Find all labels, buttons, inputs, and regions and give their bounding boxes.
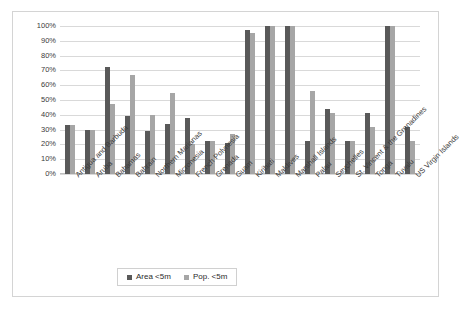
bar-group bbox=[400, 26, 420, 174]
y-axis-tick-label: 50% bbox=[41, 96, 56, 104]
plot-area: 100%90%80%70%60%50%40%30%20%10%0% bbox=[60, 26, 420, 174]
y-axis-tick-label: 40% bbox=[41, 111, 56, 119]
legend-label: Area <5m bbox=[136, 273, 171, 281]
bar-group bbox=[280, 26, 300, 174]
bar-group bbox=[260, 26, 280, 174]
legend-swatch-icon bbox=[184, 275, 189, 280]
bar-group bbox=[240, 26, 260, 174]
bar-group bbox=[60, 26, 80, 174]
bar[interactable] bbox=[270, 26, 275, 174]
bar[interactable] bbox=[390, 26, 395, 174]
bar-group bbox=[140, 26, 160, 174]
y-axis-tick-label: 80% bbox=[41, 52, 56, 60]
y-axis-tick-label: 90% bbox=[41, 37, 56, 45]
legend-swatch-icon bbox=[127, 275, 132, 280]
y-axis-tick-label: 20% bbox=[41, 141, 56, 149]
bar-series-group bbox=[60, 26, 420, 174]
y-axis-tick-label: 100% bbox=[37, 22, 56, 30]
y-axis-tick-label: 10% bbox=[41, 155, 56, 163]
x-axis-category-label: US Virgin Islands bbox=[414, 133, 460, 179]
bar[interactable] bbox=[70, 125, 75, 174]
legend-item[interactable]: Area <5m bbox=[127, 273, 171, 281]
y-axis-tick-label: 70% bbox=[41, 67, 56, 75]
y-axis-tick-label: 60% bbox=[41, 81, 56, 89]
legend-label: Pop. <5m bbox=[193, 273, 227, 281]
y-axis-tick-label: 0% bbox=[45, 170, 56, 178]
chart-legend: Area <5mPop. <5m bbox=[117, 268, 237, 286]
y-axis-tick-label: 30% bbox=[41, 126, 56, 134]
chart-container: 100%90%80%70%60%50%40%30%20%10%0% Antigu… bbox=[12, 11, 439, 297]
bar[interactable] bbox=[250, 33, 255, 174]
legend-item[interactable]: Pop. <5m bbox=[184, 273, 227, 281]
